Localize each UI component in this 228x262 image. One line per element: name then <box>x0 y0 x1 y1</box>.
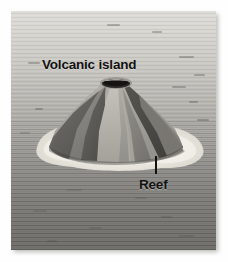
illustration-page: Volcanic island Reef <box>0 0 228 262</box>
label-volcanic-island: Volcanic island <box>42 57 136 72</box>
reef-leader-line <box>155 156 157 174</box>
crater <box>100 77 132 89</box>
figure-frame: Volcanic island Reef <box>11 11 216 250</box>
volcano-cone <box>49 80 183 165</box>
volcanic-island-graphic <box>11 11 216 250</box>
label-reef: Reef <box>139 177 167 192</box>
